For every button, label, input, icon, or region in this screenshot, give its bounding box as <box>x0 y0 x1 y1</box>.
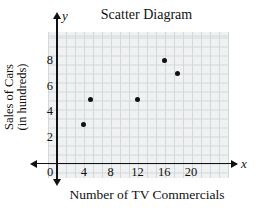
y-tick-label: 2 <box>36 130 53 145</box>
y-tick-label: 8 <box>36 53 53 68</box>
x-axis-right-arrow-icon <box>231 160 238 168</box>
x-tick-label: 16 <box>158 166 171 179</box>
data-point <box>135 97 140 102</box>
x-axis-letter: x <box>241 157 247 170</box>
y-axis-down-arrow-icon <box>53 179 61 186</box>
data-point <box>162 58 167 63</box>
chart-title: Scatter Diagram <box>56 7 237 23</box>
data-point <box>175 71 180 76</box>
y-axis-letter: y <box>62 9 68 22</box>
y-axis-title-line2: (in hundreds) <box>14 27 30 167</box>
x-tick-label: 20 <box>185 166 198 179</box>
x-axis-title: Number of TV Commercials <box>37 187 257 203</box>
x-tick-label: 4 <box>81 166 87 179</box>
plot-area <box>48 32 229 178</box>
x-tick-label: 8 <box>107 166 113 179</box>
x-axis-left-arrow-icon <box>30 160 37 168</box>
data-point <box>88 97 93 102</box>
scatter-diagram-figure: Scatter Diagram y x 048121620 2468 Numbe… <box>0 0 258 210</box>
y-tick-label: 4 <box>36 104 53 119</box>
y-axis-line <box>56 16 58 180</box>
y-axis-up-arrow-icon <box>53 12 61 19</box>
x-tick-label: 0 <box>47 166 53 179</box>
x-tick-label: 12 <box>131 166 144 179</box>
y-tick-label: 6 <box>36 79 53 94</box>
